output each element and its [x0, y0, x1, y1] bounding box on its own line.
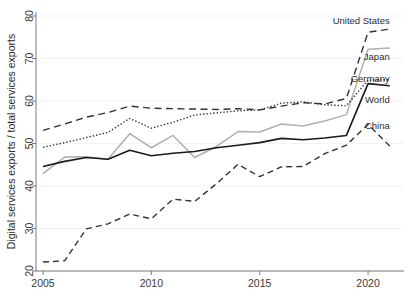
- x-axis: 2005201020152020: [31, 271, 404, 289]
- y-tick-label: 40: [23, 180, 35, 192]
- series-line-china: [43, 124, 390, 262]
- series-label-germany: Germany: [351, 73, 390, 84]
- series-line-world: [43, 84, 390, 167]
- y-tick-label: 50: [23, 138, 35, 150]
- y-tick-label: 20: [23, 265, 35, 277]
- y-tick-label: 60: [23, 95, 35, 107]
- x-tick-label: 2005: [31, 277, 55, 289]
- y-axis: 20304050607080: [23, 10, 36, 277]
- y-tick-label: 30: [23, 223, 35, 235]
- y-axis-title-text: Digital services exports / total service…: [5, 34, 17, 249]
- x-tick-label: 2010: [140, 277, 164, 289]
- series-label-china: China: [365, 120, 391, 131]
- y-axis-title: Digital services exports / total service…: [5, 34, 17, 249]
- y-tick-label: 80: [23, 10, 35, 22]
- series-line-united-states: [43, 29, 390, 130]
- series-labels: United StatesJapanGermanyWorldChina: [333, 15, 391, 131]
- series-label-japan: Japan: [364, 51, 390, 62]
- x-tick-label: 2020: [356, 277, 380, 289]
- series-label-united-states: United States: [333, 15, 390, 26]
- series-line-japan: [43, 48, 390, 174]
- line-chart: 20304050607080 2005201020152020 United S…: [0, 0, 411, 302]
- series-label-world: World: [365, 94, 390, 105]
- chart-container: 20304050607080 2005201020152020 United S…: [0, 0, 411, 302]
- x-tick-label: 2015: [248, 277, 272, 289]
- series-lines: [43, 29, 390, 262]
- y-tick-label: 70: [23, 53, 35, 65]
